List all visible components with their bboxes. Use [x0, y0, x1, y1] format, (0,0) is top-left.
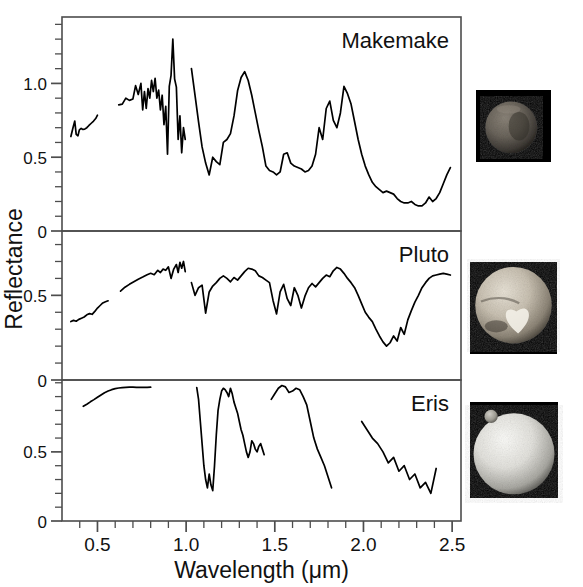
- body-disk: [474, 413, 555, 494]
- dysnomia-moon: [485, 410, 498, 423]
- bright-terrain: [497, 105, 521, 113]
- x-tick-label: 2.0: [350, 534, 376, 555]
- x-tick-label: 1.0: [173, 534, 199, 555]
- panel-pluto: 00.5Pluto: [23, 231, 461, 391]
- makemake-thumbnail: [476, 90, 551, 162]
- spectrum-curve-eris: [362, 421, 436, 493]
- x-tick-label: 1.5: [262, 534, 288, 555]
- panel-makemake: 00.51.0Makemake: [23, 17, 461, 242]
- spectrum-curve-eris: [83, 387, 150, 406]
- panel-label-pluto: Pluto: [399, 242, 449, 267]
- spectrum-curve-pluto: [191, 267, 450, 346]
- spectra-figure: 00.51.0Makemake00.5Pluto00.50.51.01.52.0…: [0, 0, 583, 587]
- y-axis-title: Reflectance: [1, 208, 27, 329]
- panel-frame: [62, 380, 461, 521]
- y-tick-label: 0.5: [23, 443, 47, 462]
- panel-eris: 00.50.51.01.52.02.5Eris: [23, 380, 465, 555]
- body-disk: [475, 267, 552, 344]
- panel-label-makemake: Makemake: [341, 28, 449, 53]
- dark-terrain: [509, 112, 530, 141]
- spectrum-curve-makemake: [119, 39, 186, 154]
- y-tick-label: 0: [38, 513, 47, 532]
- spectrum-curve-pluto: [121, 261, 186, 291]
- x-tick-label: 0.5: [84, 534, 110, 555]
- x-tick-label: 2.5: [439, 534, 465, 555]
- spectrum-curve-eris: [271, 386, 331, 488]
- eris-thumbnail: [470, 402, 558, 498]
- y-tick-label: 1.0: [23, 75, 47, 94]
- y-tick-label: 0.5: [23, 149, 47, 168]
- spectrum-curve-makemake: [191, 69, 450, 206]
- spectrum-curve-eris: [197, 388, 264, 491]
- x-axis-title: Wavelength (μm): [174, 557, 349, 583]
- panel-label-eris: Eris: [411, 391, 449, 416]
- spectrum-curve-makemake: [71, 115, 98, 136]
- spectrum-curve-pluto: [71, 301, 108, 322]
- y-tick-label: 0: [38, 223, 47, 242]
- dark-terrain: [485, 320, 508, 332]
- pluto-thumbnail: [470, 262, 557, 354]
- y-tick-label: 0: [38, 372, 47, 391]
